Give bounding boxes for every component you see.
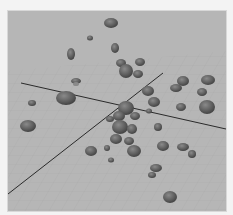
scene-render <box>8 11 226 211</box>
3d-viewport[interactable] <box>7 10 227 212</box>
viewport-frame <box>0 0 233 215</box>
